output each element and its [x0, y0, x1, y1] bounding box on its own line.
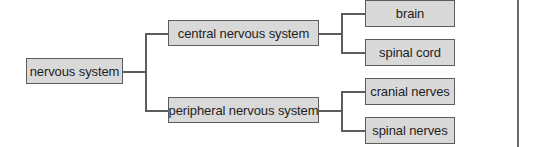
node-label: spinal nerves: [372, 123, 447, 138]
connector-to-central: [145, 33, 168, 35]
connector-central-trunk: [341, 13, 343, 53]
node-label: peripheral nervous system: [169, 103, 319, 118]
connector-root-out: [123, 71, 146, 73]
node-brain: brain: [365, 0, 455, 27]
node-peripheral-nervous-system: peripheral nervous system: [168, 97, 319, 123]
connector-central-out: [319, 33, 342, 35]
node-label: central nervous system: [178, 26, 309, 41]
connector-peripheral-out: [319, 110, 342, 112]
node-spinal-nerves: spinal nerves: [365, 117, 455, 144]
node-label: nervous system: [30, 64, 120, 79]
node-spinal-cord: spinal cord: [365, 39, 455, 66]
node-nervous-system: nervous system: [26, 58, 123, 84]
node-label: cranial nerves: [370, 84, 450, 99]
node-central-nervous-system: central nervous system: [168, 20, 319, 46]
connector-to-spinal-cord: [341, 52, 365, 54]
node-label: spinal cord: [379, 45, 441, 60]
connector-to-brain: [341, 13, 365, 15]
right-border-line: [517, 0, 519, 147]
connector-to-cranial-nerves: [341, 91, 365, 93]
nervous-system-tree-diagram: nervous system central nervous system pe…: [0, 0, 534, 147]
connector-peripheral-trunk: [341, 91, 343, 131]
node-label: brain: [396, 6, 424, 21]
connector-root-trunk: [145, 33, 147, 111]
node-cranial-nerves: cranial nerves: [365, 78, 455, 105]
connector-to-spinal-nerves: [341, 130, 365, 132]
connector-to-peripheral: [145, 110, 168, 112]
